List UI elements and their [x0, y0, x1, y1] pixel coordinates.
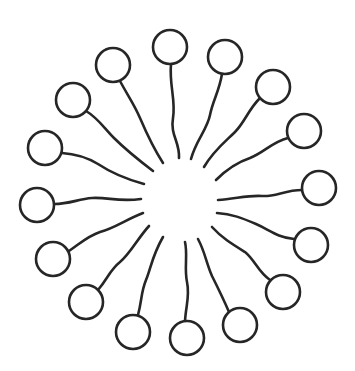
- lipid-head: [28, 131, 62, 165]
- lipid-head: [256, 70, 290, 104]
- lipid-head: [302, 171, 336, 205]
- lipid-head: [170, 321, 204, 355]
- lipid-head: [36, 242, 70, 276]
- lipid-head: [56, 83, 90, 117]
- lipid-head: [153, 30, 187, 64]
- lipid-head: [287, 114, 321, 148]
- lipid-head: [266, 275, 300, 309]
- lipid-head: [116, 315, 150, 349]
- lipid-head: [96, 48, 130, 82]
- lipid-head: [69, 285, 103, 319]
- lipid-head: [20, 188, 54, 222]
- micelle-diagram: [0, 0, 355, 371]
- lipid-head: [294, 228, 328, 262]
- lipid-head: [223, 308, 257, 342]
- lipid-head: [208, 40, 242, 74]
